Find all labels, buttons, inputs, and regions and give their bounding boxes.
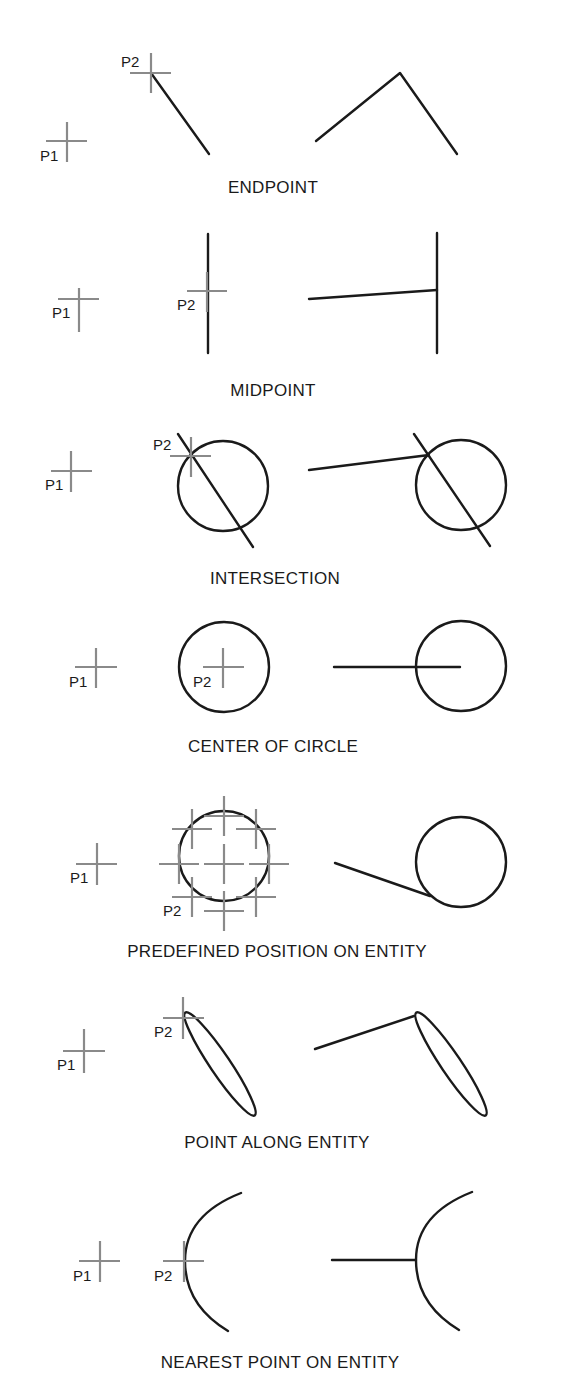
p2-label: P2 bbox=[154, 1023, 172, 1040]
p2-label: P2 bbox=[163, 902, 181, 919]
result-line bbox=[309, 455, 429, 470]
p1-label: P1 bbox=[45, 476, 63, 493]
caption-center-of-circle: CENTER OF CIRCLE bbox=[188, 737, 358, 756]
panel-intersection: P1 P2 INTERSECTION bbox=[45, 434, 506, 588]
p2-cursor-cross-icon bbox=[170, 437, 211, 477]
panel-point-along-entity: P1 P2 POINT ALONG ENTITY bbox=[57, 997, 494, 1152]
p2-label: P2 bbox=[153, 436, 171, 453]
result-polyline bbox=[316, 73, 457, 154]
caption-midpoint: MIDPOINT bbox=[230, 381, 316, 400]
panel-predefined-position: P1 P2 PREDEFINED POSITION ON ENTITY bbox=[70, 796, 506, 961]
p1-label: P1 bbox=[73, 1267, 91, 1284]
caption-predefined-position: PREDEFINED POSITION ON ENTITY bbox=[127, 942, 427, 961]
caption-endpoint: ENDPOINT bbox=[228, 178, 318, 197]
caption-intersection: INTERSECTION bbox=[210, 569, 340, 588]
target-ellipse-entity bbox=[408, 1007, 494, 1121]
p1-label: P1 bbox=[57, 1056, 75, 1073]
target-arc-entity bbox=[416, 1192, 472, 1330]
p2-label: P2 bbox=[121, 53, 139, 70]
caption-point-along-entity: POINT ALONG ENTITY bbox=[184, 1133, 370, 1152]
panel-nearest-point: P1 P2 NEAREST POINT ON ENTITY bbox=[73, 1192, 472, 1372]
p1-label: P1 bbox=[40, 147, 58, 164]
target-circle-entity bbox=[416, 817, 506, 907]
caption-nearest-point: NEAREST POINT ON ENTITY bbox=[161, 1353, 400, 1372]
ellipse-entity bbox=[177, 1007, 263, 1121]
line-entity bbox=[151, 73, 209, 154]
target-circle-entity bbox=[416, 440, 506, 530]
result-line bbox=[309, 290, 437, 299]
snap-modes-diagram: P1 P2 ENDPOINT P1 P2 MIDPOINT bbox=[0, 0, 587, 1375]
result-line bbox=[315, 1016, 414, 1049]
panel-endpoint: P1 P2 ENDPOINT bbox=[40, 53, 457, 197]
p1-label: P1 bbox=[70, 869, 88, 886]
p1-label: P1 bbox=[52, 304, 70, 321]
p2-label: P2 bbox=[154, 1267, 172, 1284]
panel-midpoint: P1 P2 MIDPOINT bbox=[52, 233, 437, 400]
p1-label: P1 bbox=[69, 673, 87, 690]
p2-label: P2 bbox=[177, 296, 195, 313]
panel-center-of-circle: P1 P2 CENTER OF CIRCLE bbox=[69, 621, 506, 756]
p2-label: P2 bbox=[193, 673, 211, 690]
